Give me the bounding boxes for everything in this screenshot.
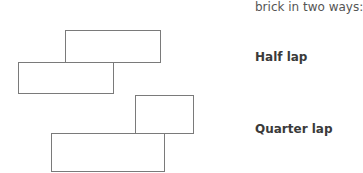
brick-bottom — [51, 133, 165, 172]
brick-top — [65, 30, 161, 63]
half-lap-label: Half lap — [255, 50, 307, 64]
quarter-lap-label: Quarter lap — [255, 122, 333, 136]
brick-bottom — [18, 62, 114, 94]
intro-text: brick in two ways: — [255, 0, 363, 14]
brick-top — [135, 95, 194, 134]
